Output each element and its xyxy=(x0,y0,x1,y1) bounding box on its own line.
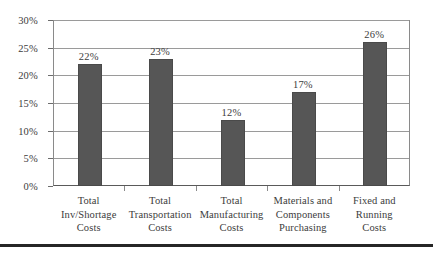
bottom-divider xyxy=(0,244,433,247)
x-category-label-line: Fixed and xyxy=(353,194,396,208)
x-category-label-line: Total xyxy=(200,194,264,208)
x-category-label: Materials andComponentsPurchasing xyxy=(274,194,333,235)
x-category-label: TotalInv/ShortageCosts xyxy=(61,194,116,235)
x-category-label-line: Transportation xyxy=(129,208,192,222)
x-category-label-line: Running xyxy=(353,208,396,222)
y-tick-label: 5% xyxy=(24,153,38,164)
x-category-label-line: Inv/Shortage xyxy=(61,208,116,222)
y-tick-label: 20% xyxy=(18,70,38,81)
x-category-label-line: Total xyxy=(61,194,116,208)
bar xyxy=(149,59,173,186)
x-tick-mark xyxy=(124,186,125,191)
gridline xyxy=(54,20,409,21)
bar-value-label: 26% xyxy=(364,29,384,40)
x-category-label-line: Costs xyxy=(200,221,264,235)
gridline xyxy=(54,103,409,104)
x-tick-mark xyxy=(267,186,268,191)
x-category-label: TotalManufacturingCosts xyxy=(200,194,264,235)
bar-value-label: 12% xyxy=(222,107,242,118)
x-category-label: TotalTransportationCosts xyxy=(129,194,192,235)
bar-value-label: 23% xyxy=(150,46,170,57)
x-category-label-line: Total xyxy=(129,194,192,208)
x-tick-mark xyxy=(196,186,197,191)
gridline xyxy=(54,48,409,49)
y-tick-mark xyxy=(48,186,53,187)
bar xyxy=(78,64,102,186)
y-tick-label: 30% xyxy=(18,15,38,26)
plot-area xyxy=(53,20,410,186)
y-tick-label: 0% xyxy=(24,181,38,192)
x-category-label-line: Costs xyxy=(61,221,116,235)
x-tick-mark xyxy=(339,186,340,191)
y-tick-label: 15% xyxy=(18,98,38,109)
bar xyxy=(363,42,387,186)
bar-value-label: 22% xyxy=(79,51,99,62)
bar xyxy=(292,92,316,186)
x-category-label-line: Costs xyxy=(353,221,396,235)
x-category-label-line: Purchasing xyxy=(274,221,333,235)
bar-chart-figure: 0%5%10%15%20%25%30% TotalInv/ShortageCos… xyxy=(0,0,433,255)
x-category-label-line: Manufacturing xyxy=(200,208,264,222)
x-category-label-line: Materials and xyxy=(274,194,333,208)
y-axis: 0%5%10%15%20%25%30% xyxy=(0,0,46,255)
y-tick-label: 25% xyxy=(18,42,38,53)
x-category-label-line: Costs xyxy=(129,221,192,235)
x-category-label-line: Components xyxy=(274,208,333,222)
bar-value-label: 17% xyxy=(293,79,313,90)
y-tick-label: 10% xyxy=(18,125,38,136)
gridline xyxy=(54,75,409,76)
x-category-label: Fixed andRunningCosts xyxy=(353,194,396,235)
bar xyxy=(221,120,245,186)
